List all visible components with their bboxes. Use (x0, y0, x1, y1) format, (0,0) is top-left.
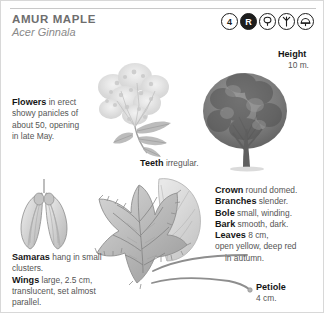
caption-flowers: Flowers in erect showy panicles of about… (12, 97, 84, 142)
caption-bark: Bark smooth, dark. (215, 219, 323, 230)
caption-teeth-text: irregular. (164, 158, 199, 168)
caption-branches-text: slender. (256, 196, 288, 206)
caption-wings: Wings large, 2.5 cm, translucent, set al… (12, 275, 117, 309)
caption-bole-term: Bole (215, 208, 235, 218)
caption-petiole: Petiole 4 cm. (256, 282, 318, 305)
caption-leaves-line3: in autumn. (215, 253, 319, 264)
caption-samaras-term: Samaras (12, 252, 50, 262)
caption-petiole-value: 4 cm. (256, 293, 276, 303)
caption-branches-term: Branches (215, 196, 256, 206)
species-info-card: AMUR MAPLE Acer Ginnala 4 R (0, 0, 324, 313)
caption-bark-text: smooth, dark. (235, 219, 288, 229)
page-title: AMUR MAPLE Acer Ginnala (12, 13, 96, 39)
caption-height-value: 10 m. (278, 60, 323, 71)
caption-bark-term: Bark (215, 219, 235, 229)
caption-branches: Branches slender. (215, 196, 323, 207)
header-divider (10, 8, 316, 9)
hardiness-zone-label: 4 (227, 17, 232, 27)
round-crown-shape-icon (259, 13, 276, 30)
registered-mark-label: R (245, 17, 252, 27)
shade-tree-icon (297, 13, 314, 30)
caption-crown: Crown round domed. (215, 185, 323, 196)
caption-leaves: Leaves 8 cm, open yellow, deep red in au… (215, 230, 319, 264)
flower-panicle-illustration (87, 57, 195, 161)
caption-crown-group: Crown round domed. Branches slender. Bol… (215, 185, 323, 230)
caption-crown-term: Crown (215, 185, 243, 195)
symbol-badge-row: 4 R (221, 13, 314, 30)
caption-bole: Bole small, winding. (215, 208, 323, 219)
caption-samaras: Samaras hang in small clusters. (12, 252, 117, 275)
caption-petiole-term: Petiole (256, 282, 286, 292)
caption-height-term: Height (278, 49, 306, 59)
caption-teeth-term: Teeth (140, 158, 164, 168)
caption-wings-term: Wings (12, 275, 39, 285)
caption-leaves-term: Leaves (215, 230, 246, 240)
botanical-name-subheading: Acer Ginnala (12, 27, 96, 39)
caption-flowers-term: Flowers (12, 97, 46, 107)
caption-leaves-line2: open yellow, deep red (215, 241, 296, 251)
caption-leaves-text: 8 cm, (246, 230, 269, 240)
samara-seed-illustration (5, 177, 83, 255)
upright-vase-shape-icon (278, 13, 295, 30)
caption-crown-text: round domed. (243, 185, 297, 195)
caption-teeth: Teeth irregular. (140, 158, 235, 169)
caption-bole-text: small, winding. (235, 208, 292, 218)
registered-mark-icon: R (240, 13, 257, 30)
common-name-heading: AMUR MAPLE (12, 13, 96, 25)
hardiness-zone-icon: 4 (221, 13, 238, 30)
caption-samaras-group: Samaras hang in small clusters. Wings la… (12, 252, 117, 308)
caption-height: Height 10 m. (278, 49, 323, 72)
